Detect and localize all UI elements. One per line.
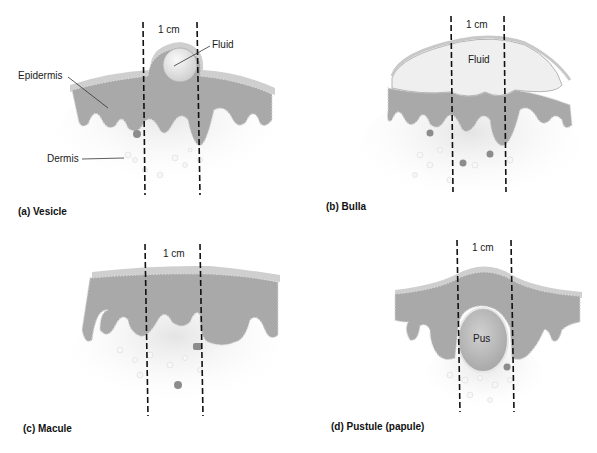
panel-bulla: 1 cm Fluid (b) Bulla [300,0,597,230]
cell-cluster [193,343,202,350]
scale-label: 1 cm [158,24,180,35]
scale-label: 1 cm [466,19,488,30]
scale-label: 1 cm [472,242,494,253]
dermis-label: Dermis [47,153,79,164]
caption-macule: (c) Macule [23,423,72,434]
macule-diagram: 1 cm (c) Macule [0,230,300,453]
fluid-vesicle [163,48,197,82]
panel-vesicle: 1 cm Fluid Epidermis Dermis (a) Vesicle [0,0,300,230]
panel-pustule: 1 cm Pus (d) Pustule (papule) [300,230,597,453]
caption-bulla: (b) Bulla [326,201,366,212]
cell-cluster [427,130,434,137]
pustule-diagram: 1 cm Pus (d) Pustule (papule) [300,230,597,453]
scale-label: 1 cm [163,248,185,259]
epidermis-label: Epidermis [18,70,62,81]
cell-cluster [460,160,467,167]
panel-macule: 1 cm (c) Macule [0,230,300,453]
cell-cluster [174,381,182,389]
vesicle-diagram: 1 cm Fluid Epidermis Dermis (a) Vesicle [0,0,300,230]
cell-cluster [504,364,511,371]
cell-cluster [487,151,494,158]
bulla-diagram: 1 cm Fluid (b) Bulla [300,0,597,230]
caption-pustule: (d) Pustule (papule) [331,421,424,432]
pus-label: Pus [473,333,490,344]
fluid-label: Fluid [212,39,234,50]
caption-vesicle: (a) Vesicle [18,206,67,217]
fluid-label: Fluid [468,54,490,65]
cell-cluster [133,130,141,138]
